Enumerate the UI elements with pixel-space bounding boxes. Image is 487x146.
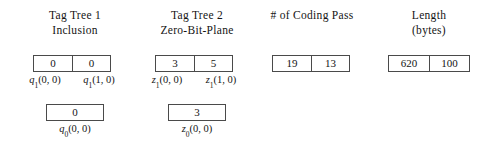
table-cell: 100 (429, 56, 469, 71)
column-header-tag-tree-2: Tag Tree 2 Zero-Bit-Plane (134, 8, 260, 38)
tag-tree-figure: Tag Tree 1 Inclusion Tag Tree 2 Zero-Bit… (0, 0, 487, 146)
tag-tree-1-level0-labels: q0(0, 0) (48, 122, 102, 136)
column-header-length-line1: Length (373, 8, 485, 23)
column-header-length: Length (bytes) (373, 8, 485, 38)
table-cell: 0 (47, 105, 103, 120)
column-header-coding-pass: # of Coding Pass (256, 8, 368, 23)
tag-tree-2-level0-box: 3 (168, 104, 226, 121)
column-header-coding-pass-line1: # of Coding Pass (256, 8, 368, 23)
cell-label: z1(0, 0) (140, 73, 194, 87)
tag-tree-2-level1-box: 3 5 (155, 55, 233, 72)
table-cell: 3 (169, 105, 225, 120)
coding-pass-box: 19 13 (272, 55, 350, 72)
cell-label: q0(0, 0) (48, 122, 102, 136)
column-header-length-line2: (bytes) (373, 23, 485, 38)
column-header-tag-tree-1-line1: Tag Tree 1 (19, 8, 131, 23)
tag-tree-1-level1-labels: q1(0, 0) q1(1, 0) (18, 73, 126, 87)
tag-tree-2-level1-labels: z1(0, 0) z1(1, 0) (140, 73, 248, 87)
tag-tree-1-level1-box: 0 0 (33, 55, 111, 72)
table-cell: 0 (34, 56, 72, 71)
column-header-tag-tree-2-line2: Zero-Bit-Plane (134, 23, 260, 38)
cell-label: q1(0, 0) (18, 73, 72, 87)
table-cell: 19 (273, 56, 311, 71)
column-header-tag-tree-2-line1: Tag Tree 2 (134, 8, 260, 23)
table-cell: 0 (72, 56, 110, 71)
column-header-tag-tree-1-line2: Inclusion (19, 23, 131, 38)
table-cell: 620 (389, 56, 429, 71)
cell-label: q1(1, 0) (72, 73, 126, 87)
column-header-tag-tree-1: Tag Tree 1 Inclusion (19, 8, 131, 38)
table-cell: 13 (311, 56, 349, 71)
cell-label: z0(0, 0) (170, 122, 224, 136)
length-box: 620 100 (388, 55, 470, 72)
table-cell: 3 (156, 56, 194, 71)
table-cell: 5 (194, 56, 232, 71)
cell-label: z1(1, 0) (194, 73, 248, 87)
tag-tree-1-level0-box: 0 (46, 104, 104, 121)
tag-tree-2-level0-labels: z0(0, 0) (170, 122, 224, 136)
